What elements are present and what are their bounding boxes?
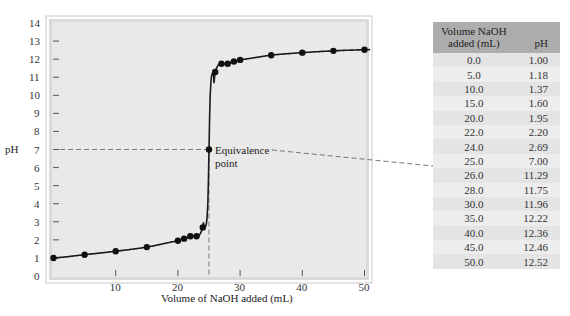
y-tick-label: 7 (34, 144, 40, 156)
ph-cell: 11.29 (515, 168, 560, 182)
data-point (231, 58, 237, 64)
y-tick-label: 5 (34, 180, 40, 192)
volume-cell: 15.0 (433, 96, 515, 110)
volume-cell: 40.0 (433, 226, 515, 240)
table-row: 35.012.22 (433, 211, 560, 225)
data-point (299, 49, 305, 55)
data-point (193, 233, 199, 239)
x-axis-title: Volume of NaOH added (mL) (161, 292, 293, 305)
volume-header-line2: added (mL) (448, 37, 500, 49)
volume-cell: 25.0 (433, 154, 515, 168)
y-tick-label: 11 (29, 71, 40, 83)
y-tick-label: 4 (34, 198, 40, 210)
data-point (200, 224, 206, 230)
table-row: 5.01.18 (433, 67, 560, 81)
volume-cell: 0.0 (433, 53, 515, 67)
y-axis-title: pH (5, 143, 19, 155)
data-point (237, 57, 243, 63)
volume-header-line1: Volume NaOH (441, 25, 506, 37)
data-point (206, 146, 212, 152)
volume-cell: 24.0 (433, 139, 515, 153)
volume-cell: 30.0 (433, 197, 515, 211)
data-point (175, 238, 181, 244)
y-tick-label: 14 (29, 17, 41, 29)
data-point (330, 48, 336, 54)
data-point (81, 251, 87, 257)
ph-cell: 11.96 (515, 197, 560, 211)
volume-cell: 20.0 (433, 111, 515, 125)
data-point (218, 60, 224, 66)
table-row: 24.02.69 (433, 139, 560, 153)
ph-cell: 1.60 (515, 96, 560, 110)
ph-cell: 1.00 (515, 53, 560, 67)
volume-cell: 5.0 (433, 67, 515, 81)
equivalence-label-line2: point (215, 157, 238, 169)
y-tick-label: 0 (34, 270, 40, 282)
table-body: 0.01.005.01.1810.01.3715.01.6020.01.9522… (433, 53, 560, 269)
data-point (224, 60, 230, 66)
y-tick-label: 6 (34, 162, 40, 174)
y-tick-label: 8 (34, 125, 40, 137)
data-point (212, 69, 218, 75)
table-row: 20.01.95 (433, 111, 560, 125)
y-tick-label: 2 (34, 234, 40, 246)
y-tick-label: 13 (29, 35, 41, 47)
ph-cell: 7.00 (515, 154, 560, 168)
data-point (361, 47, 367, 53)
x-tick-label: 50 (359, 281, 371, 293)
table-row: 45.012.46 (433, 240, 560, 254)
data-point (187, 233, 193, 239)
table-row: 50.012.52 (433, 254, 560, 268)
x-tick-label: 40 (296, 281, 308, 293)
table-row: 28.011.75 (433, 183, 560, 197)
volume-cell: 10.0 (433, 82, 515, 96)
volume-cell: 35.0 (433, 211, 515, 225)
table-row: 22.02.20 (433, 125, 560, 139)
volume-cell: 22.0 (433, 125, 515, 139)
x-tick-label: 10 (110, 281, 122, 293)
ph-cell: 12.46 (515, 240, 560, 254)
volume-column-header: Volume NaOH added (mL) (433, 22, 515, 53)
volume-cell: 26.0 (433, 168, 515, 182)
table-row: 10.01.37 (433, 82, 560, 96)
ph-cell: 2.20 (515, 125, 560, 139)
table-row: 40.012.36 (433, 226, 560, 240)
ph-cell: 1.95 (515, 111, 560, 125)
y-tick-label: 1 (34, 252, 40, 264)
volume-cell: 45.0 (433, 240, 515, 254)
ph-cell: 2.69 (515, 139, 560, 153)
data-point (268, 52, 274, 58)
table-row: 0.01.00 (433, 53, 560, 67)
data-point (50, 255, 56, 261)
equivalence-label-line1: Equivalence (215, 144, 269, 156)
y-tick-label: 3 (34, 216, 40, 228)
ph-cell: 1.18 (515, 67, 560, 81)
y-tick-label: 10 (29, 89, 41, 101)
data-point (113, 248, 119, 254)
table-row: 26.011.29 (433, 168, 560, 182)
titration-data-table: Volume NaOH added (mL) pH 0.01.005.01.18… (433, 22, 560, 269)
y-tick-label: 9 (34, 107, 40, 119)
ph-cell: 12.52 (515, 254, 560, 268)
ph-cell: 12.36 (515, 226, 560, 240)
volume-cell: 50.0 (433, 254, 515, 268)
ph-cell: 1.37 (515, 82, 560, 96)
data-point (144, 244, 150, 250)
table-row: 25.07.00 (433, 154, 560, 168)
ph-cell: 11.75 (515, 183, 560, 197)
table-header-row: Volume NaOH added (mL) pH (433, 22, 560, 53)
y-tick-label: 12 (29, 53, 40, 65)
data-point (181, 235, 187, 241)
volume-cell: 28.0 (433, 183, 515, 197)
ph-cell: 12.22 (515, 211, 560, 225)
table-row: 30.011.96 (433, 197, 560, 211)
table-row: 15.01.60 (433, 96, 560, 110)
ph-column-header: pH (515, 22, 560, 53)
